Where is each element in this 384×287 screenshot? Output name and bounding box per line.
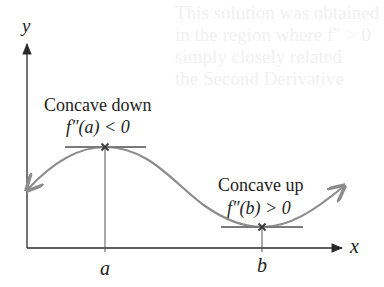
second-derivative-b-condition: f″(b) > 0 [227, 199, 291, 217]
x-axis-label: x [350, 236, 359, 256]
tick-label-b: b [257, 255, 267, 275]
tick-label-a: a [100, 258, 110, 278]
y-axis-label: y [22, 16, 30, 35]
concave-down-label: Concave down [44, 96, 151, 114]
second-derivative-a-condition: f″(a) < 0 [66, 118, 130, 136]
concave-up-label: Concave up [218, 176, 303, 194]
